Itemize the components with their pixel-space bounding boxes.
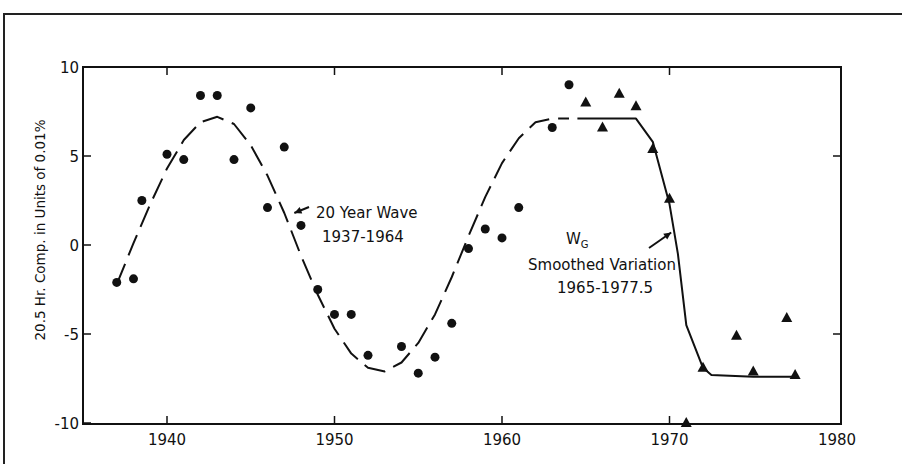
x-tick-label: 1950: [315, 431, 353, 449]
wg-label-line2: 1965-1977.5: [557, 279, 653, 297]
data-point-triangle: [580, 97, 591, 107]
x-tick-label: 1960: [483, 431, 521, 449]
data-point-circle: [397, 342, 406, 351]
data-points: [112, 80, 800, 427]
data-point-triangle: [681, 417, 692, 427]
data-point-circle: [163, 150, 172, 159]
y-axis-label: 20.5 Hr. Comp. in Units of 0.01%: [32, 119, 48, 340]
data-point-circle: [137, 196, 146, 205]
data-point-circle: [347, 310, 356, 319]
data-point-triangle: [781, 312, 792, 322]
data-point-circle: [330, 310, 339, 319]
data-point-circle: [364, 351, 373, 360]
data-point-circle: [447, 319, 456, 328]
data-point-circle: [280, 143, 289, 152]
data-point-triangle: [631, 100, 642, 110]
data-point-circle: [196, 91, 205, 100]
data-point-triangle: [647, 143, 658, 153]
y-tick-label: -5: [64, 326, 79, 344]
data-point-triangle: [731, 330, 742, 340]
data-point-circle: [129, 274, 138, 283]
data-point-circle: [431, 353, 440, 362]
plot-axes: [83, 67, 841, 424]
data-point-circle: [464, 244, 473, 253]
wave-label-line2: 1937-1964: [322, 228, 404, 246]
y-tick-label: 5: [69, 148, 79, 166]
axis-ticks: 194019501960197019801050-5-10: [55, 59, 857, 449]
data-point-circle: [246, 103, 255, 112]
data-point-circle: [481, 224, 490, 233]
data-point-triangle: [790, 369, 801, 379]
data-point-circle: [313, 285, 322, 294]
data-point-circle: [112, 278, 121, 287]
x-tick-label: 1940: [148, 431, 186, 449]
data-point-circle: [498, 233, 507, 242]
data-point-circle: [263, 203, 272, 212]
data-point-circle: [514, 203, 523, 212]
wg-label-line1: Smoothed Variation: [528, 256, 676, 274]
y-tick-label: 0: [69, 237, 79, 255]
data-point-triangle: [748, 365, 759, 375]
x-tick-label: 1980: [818, 431, 856, 449]
data-point-circle: [230, 155, 239, 164]
wg-smoothed-variation-curve: [577, 119, 795, 377]
y-tick-label: 10: [60, 59, 79, 77]
data-point-circle: [179, 155, 188, 164]
plot-area-border: [83, 67, 841, 424]
x-tick-label: 1970: [650, 431, 688, 449]
y-tick-label: -10: [55, 415, 80, 433]
data-point-triangle: [698, 362, 709, 372]
data-point-triangle: [614, 88, 625, 98]
data-point-triangle: [664, 193, 675, 203]
wg-label-symbol: WG: [566, 230, 589, 250]
data-point-triangle: [597, 122, 608, 132]
data-point-circle: [414, 369, 423, 378]
annotations: 20 Year Wave 1937-1964 WG Smoothed Varia…: [294, 204, 676, 297]
fit-curves: [117, 117, 795, 377]
wave-label-line1: 20 Year Wave: [316, 204, 418, 222]
data-point-circle: [213, 91, 222, 100]
chart-canvas: 194019501960197019801050-5-10 20 Year Wa…: [0, 0, 902, 464]
data-point-circle: [565, 80, 574, 89]
data-point-circle: [297, 221, 306, 230]
data-point-circle: [548, 123, 557, 132]
